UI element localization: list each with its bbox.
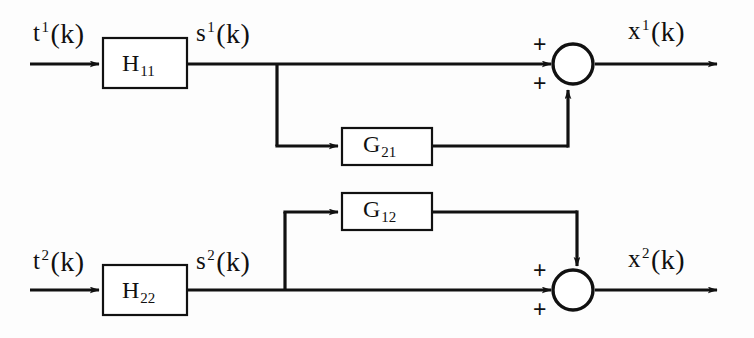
- label-output-1: x1(k): [628, 18, 685, 46]
- block-label-g21: G21: [363, 131, 396, 158]
- label-output-2: x2(k): [628, 246, 685, 274]
- label-input-1: t1(k): [33, 20, 85, 48]
- summing-junction-2: [553, 270, 593, 310]
- label-mid-1: s1(k): [196, 20, 250, 48]
- diagram-vector-layer: [0, 0, 754, 338]
- block-label-h11: H11: [122, 50, 155, 77]
- sum2-sign-bottom: +: [533, 298, 546, 321]
- block-label-g12: G12: [363, 196, 396, 223]
- summing-junction-1: [553, 44, 593, 84]
- sum1-sign-top: +: [533, 33, 546, 56]
- sum2-sign-top: +: [533, 259, 546, 282]
- label-input-2: t2(k): [33, 248, 85, 276]
- sum1-sign-bottom: +: [533, 72, 546, 95]
- block-diagram-canvas: t1(k) s1(k) x1(k) t2(k) s2(k) x2(k) H11 …: [0, 0, 754, 338]
- label-mid-2: s2(k): [196, 248, 250, 276]
- block-label-h22: H22: [122, 277, 155, 304]
